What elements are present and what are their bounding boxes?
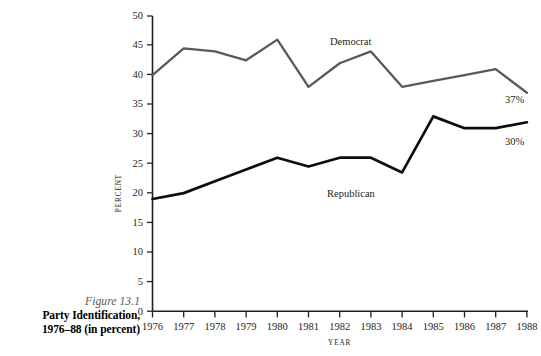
figure-container: 0 5 10 15 20 25 30 35 40 45 50 PERCENT — [0, 0, 541, 356]
republican-end-value-label: 30% — [505, 136, 525, 147]
y-tick-label-5: 5 — [138, 276, 143, 287]
x-tick-label-1986: 1986 — [454, 321, 475, 332]
democrat-line — [153, 40, 527, 93]
x-tick-label-1984: 1984 — [392, 321, 414, 332]
data-series-group — [153, 40, 527, 199]
x-tick-label-1987: 1987 — [485, 321, 506, 332]
x-tick-label-1983: 1983 — [360, 321, 381, 332]
x-axis-title: YEAR — [328, 339, 351, 347]
y-axis-tick-labels: 0 5 10 15 20 25 30 35 40 45 50 — [133, 10, 144, 316]
y-tick-label-15: 15 — [133, 217, 144, 228]
x-tick-label-1977: 1977 — [173, 321, 194, 332]
x-axis-tick-labels: 1976 1977 1978 1979 1980 1981 1982 1983 … — [142, 321, 537, 332]
x-tick-label-1981: 1981 — [298, 321, 319, 332]
x-tick-label-1976: 1976 — [142, 321, 163, 332]
caption-title-line-2: 1976–88 (in percent) — [6, 322, 140, 336]
y-tick-label-45: 45 — [133, 39, 144, 50]
caption-figure-number: Figure 13.1 — [6, 294, 140, 308]
democrat-series-label: Democrat — [330, 36, 371, 47]
y-axis-ticks — [147, 16, 153, 311]
x-tick-label-1982: 1982 — [329, 321, 350, 332]
y-tick-label-10: 10 — [133, 246, 144, 257]
x-tick-label-1985: 1985 — [423, 321, 444, 332]
x-tick-label-1978: 1978 — [204, 321, 225, 332]
y-tick-label-30: 30 — [133, 128, 144, 139]
y-tick-label-40: 40 — [133, 69, 144, 80]
y-tick-label-25: 25 — [133, 158, 144, 169]
x-tick-label-1979: 1979 — [236, 321, 257, 332]
republican-series-label: Republican — [327, 188, 376, 199]
republican-line — [153, 116, 527, 199]
axis-lines — [153, 16, 529, 312]
y-axis-title: PERCENT — [115, 174, 123, 212]
y-tick-label-20: 20 — [133, 187, 144, 198]
x-axis-ticks — [153, 311, 527, 317]
x-tick-label-1980: 1980 — [267, 321, 288, 332]
democrat-end-value-label: 37% — [505, 94, 525, 105]
x-tick-label-1988: 1988 — [516, 321, 537, 332]
caption-title-line-1: Party Identification, — [6, 308, 140, 322]
y-tick-label-35: 35 — [133, 98, 144, 109]
y-tick-label-50: 50 — [133, 10, 144, 21]
figure-caption: Figure 13.1 Party Identification, 1976–8… — [6, 294, 140, 336]
